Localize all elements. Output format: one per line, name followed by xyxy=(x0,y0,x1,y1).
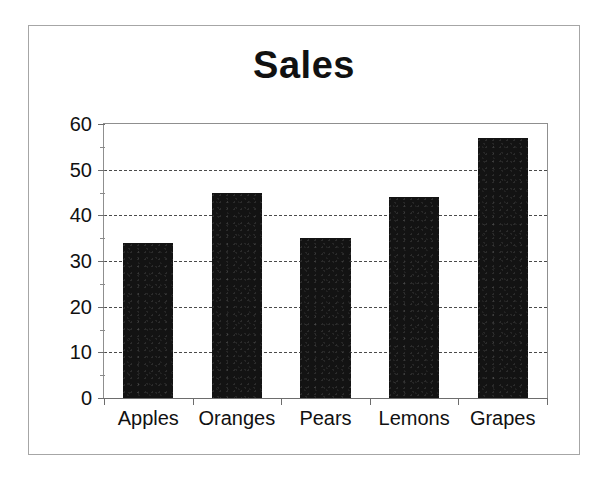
bar xyxy=(478,138,528,398)
y-axis-tick-label: 30 xyxy=(70,251,92,271)
y-axis-tick xyxy=(98,261,105,262)
x-axis-category-label: Grapes xyxy=(470,408,536,428)
y-axis-tick-label: 20 xyxy=(70,297,92,317)
x-axis-tick xyxy=(193,398,194,405)
y-axis-tick-label: 0 xyxy=(81,388,92,408)
y-axis-tick xyxy=(98,215,105,216)
y-axis-tick xyxy=(98,307,105,308)
plot-area: 0102030405060ApplesOrangesPearsLemonsGra… xyxy=(103,123,548,399)
y-axis-tick xyxy=(98,352,105,353)
y-axis-minor-tick xyxy=(100,193,105,194)
x-axis-tick xyxy=(281,398,282,405)
bar xyxy=(123,243,173,398)
x-axis-category-label: Apples xyxy=(118,408,179,428)
x-axis-tick xyxy=(370,398,371,405)
y-axis-minor-tick xyxy=(100,238,105,239)
y-axis-tick-label: 50 xyxy=(70,160,92,180)
x-axis-tick xyxy=(458,398,459,405)
y-axis-tick xyxy=(98,170,105,171)
y-axis-minor-tick xyxy=(100,375,105,376)
y-axis-tick-label: 10 xyxy=(70,342,92,362)
x-axis-end-tick xyxy=(547,398,548,405)
y-axis-minor-tick xyxy=(100,284,105,285)
x-axis-category-label: Lemons xyxy=(379,408,450,428)
y-axis-tick xyxy=(98,124,105,125)
x-axis-category-label: Oranges xyxy=(199,408,276,428)
x-axis-start-tick xyxy=(104,398,105,405)
y-axis-minor-tick xyxy=(100,147,105,148)
chart-figure-frame: Sales 0102030405060ApplesOrangesPearsLem… xyxy=(28,25,580,455)
bar xyxy=(300,238,350,398)
y-axis-tick-label: 40 xyxy=(70,205,92,225)
bar xyxy=(212,193,262,399)
chart-title: Sales xyxy=(29,46,579,84)
y-axis-minor-tick xyxy=(100,330,105,331)
y-axis-tick-label: 60 xyxy=(70,114,92,134)
x-axis-category-label: Pears xyxy=(299,408,351,428)
bar xyxy=(389,197,439,398)
